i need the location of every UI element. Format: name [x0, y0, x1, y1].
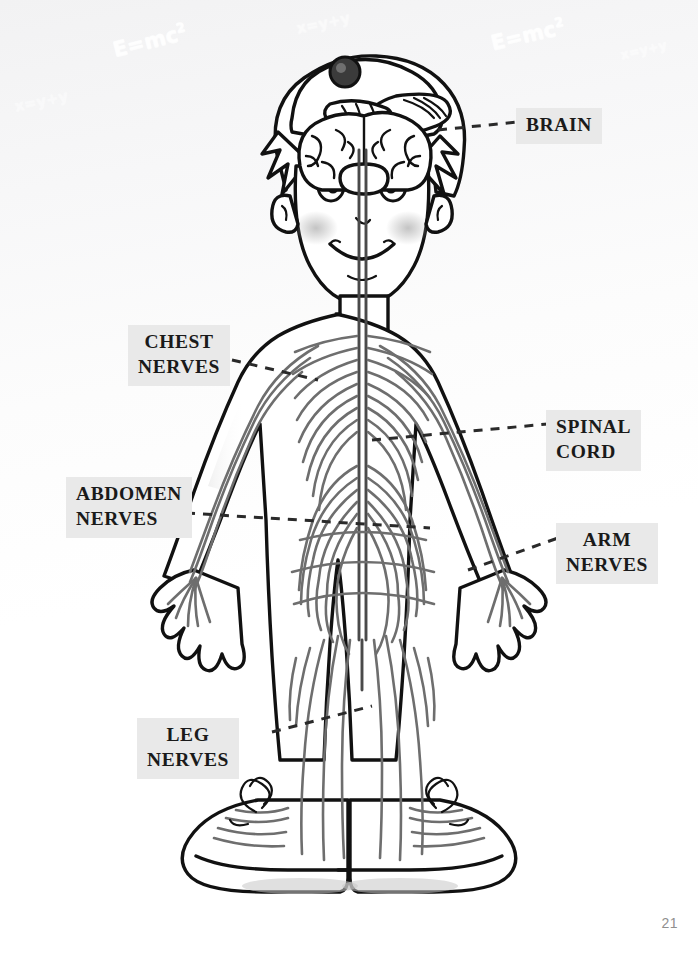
page-number: 21	[661, 915, 678, 931]
callout-brain[interactable]: BRAIN	[516, 108, 602, 144]
head-group	[262, 56, 465, 304]
callout-arm-nerves[interactable]: ARM NERVES	[556, 523, 658, 584]
left-shoe	[182, 778, 360, 892]
callout-spinal-cord[interactable]: SPINAL CORD	[546, 410, 641, 471]
right-shoe	[338, 778, 516, 892]
nervous-system-diagram-page: E=mc2 x=y+y E=mc2 x=y+y x=y+y	[0, 0, 698, 959]
callout-abdomen-nerves[interactable]: ABDOMEN NERVES	[66, 477, 192, 538]
callout-chest-nerves[interactable]: CHEST NERVES	[128, 325, 230, 386]
callout-leg-nerves[interactable]: LEG NERVES	[137, 718, 239, 779]
